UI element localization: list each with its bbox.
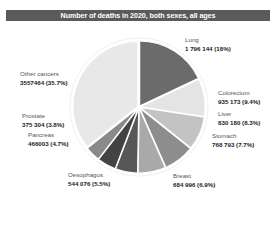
slice-label-name: Liver [218, 110, 260, 119]
slice-label-lung: Lung1 796 144 (18%) [185, 36, 231, 53]
slice-label-breast: Breast684 996 (6.9%) [173, 172, 215, 189]
slice-label-liver: Liver830 180 (8.3%) [218, 110, 260, 127]
slice-label-value: 684 996 (6.9%) [173, 181, 215, 190]
slice-label-name: Lung [185, 36, 231, 45]
slice-label-other-cancers: Other cancers3557464 (35.7%) [20, 70, 67, 87]
slice-label-value: 3557464 (35.7%) [20, 79, 67, 88]
slice-label-oesophagus: Oesophagus544 076 (5.5%) [68, 171, 110, 188]
slice-label-colorectum: Colorectum935 173 (9.4%) [218, 89, 260, 106]
slice-label-name: Prostate [22, 112, 64, 121]
slice-label-value: 544 076 (5.5%) [68, 180, 110, 189]
slice-label-value: 375 304 (3.8%) [22, 121, 64, 130]
slice-label-prostate: Prostate375 304 (3.8%) [22, 112, 64, 129]
slice-label-value: 830 180 (8.3%) [218, 119, 260, 128]
slice-label-name: Breast [173, 172, 215, 181]
pie-slices [73, 41, 205, 173]
slice-label-value: 466003 (4.7%) [28, 140, 69, 149]
slice-label-stomach: Stomach768 793 (7.7%) [212, 132, 254, 149]
slice-label-name: Stomach [212, 132, 254, 141]
slice-label-value: 1 796 144 (18%) [185, 45, 231, 54]
slice-label-name: Other cancers [20, 70, 67, 79]
slice-label-name: Pancreas [28, 131, 69, 140]
slice-label-value: 768 793 (7.7%) [212, 141, 254, 150]
slice-label-pancreas: Pancreas466003 (4.7%) [28, 131, 69, 148]
slice-label-name: Colorectum [218, 89, 260, 98]
slice-label-value: 935 173 (9.4%) [218, 98, 260, 107]
slice-label-name: Oesophagus [68, 171, 110, 180]
